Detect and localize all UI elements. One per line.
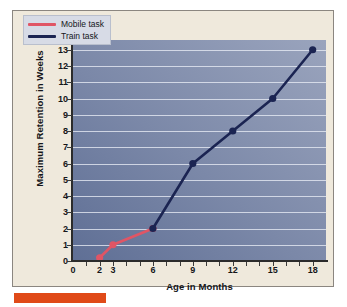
y-axis-tick-labels: 012345678910111213 bbox=[49, 40, 68, 260]
series-line bbox=[100, 229, 153, 258]
y-tick-mark bbox=[67, 82, 72, 83]
y-tick-label: 12 bbox=[49, 62, 68, 71]
data-point-marker bbox=[109, 241, 116, 248]
y-tick-label: 6 bbox=[49, 159, 68, 168]
legend-swatch bbox=[28, 23, 56, 26]
y-tick-label: 2 bbox=[49, 224, 68, 233]
y-tick-mark bbox=[67, 66, 72, 67]
data-point-marker bbox=[309, 46, 316, 53]
y-tick-label: 7 bbox=[49, 143, 68, 152]
y-tick-label: 11 bbox=[49, 78, 68, 87]
y-tick-mark bbox=[67, 99, 72, 100]
x-tick-label: 3 bbox=[110, 266, 115, 276]
x-tick-label: 18 bbox=[308, 266, 318, 276]
y-tick-mark bbox=[67, 229, 72, 230]
legend-label: Mobile task bbox=[61, 20, 104, 29]
y-tick-label: 5 bbox=[49, 175, 68, 184]
legend-swatch bbox=[28, 35, 56, 38]
y-tick-mark bbox=[67, 164, 72, 165]
y-axis-ticks bbox=[67, 40, 72, 260]
y-tick-mark bbox=[67, 212, 72, 213]
x-axis-tick-labels: 02369121518 bbox=[53, 266, 347, 280]
y-tick-label: 1 bbox=[49, 240, 68, 249]
data-point-marker bbox=[149, 225, 156, 232]
legend-item: Mobile task bbox=[28, 19, 104, 29]
legend-item: Train task bbox=[28, 31, 104, 41]
x-tick-label: 0 bbox=[70, 266, 75, 276]
plot-area bbox=[73, 40, 326, 261]
y-tick-label: 8 bbox=[49, 127, 68, 136]
x-tick-label: 12 bbox=[228, 266, 238, 276]
y-tick-label: 3 bbox=[49, 208, 68, 217]
chart-legend: Mobile taskTrain task bbox=[23, 15, 111, 45]
y-tick-mark bbox=[67, 115, 72, 116]
y-tick-mark bbox=[67, 50, 72, 51]
y-tick-mark bbox=[67, 196, 72, 197]
x-tick-label: 9 bbox=[190, 266, 195, 276]
x-tick-label: 2 bbox=[97, 266, 102, 276]
y-tick-mark bbox=[67, 180, 72, 181]
y-tick-label: 9 bbox=[49, 110, 68, 119]
y-tick-label: 10 bbox=[49, 94, 68, 103]
y-tick-mark bbox=[67, 245, 72, 246]
data-point-marker bbox=[189, 160, 196, 167]
x-tick-label: 6 bbox=[150, 266, 155, 276]
series-line bbox=[153, 50, 313, 229]
legend-label: Train task bbox=[61, 32, 98, 41]
y-tick-label: 13 bbox=[49, 45, 68, 54]
series-lines bbox=[73, 40, 326, 261]
data-point-marker bbox=[269, 95, 276, 102]
x-tick-label: 15 bbox=[268, 266, 278, 276]
y-tick-mark bbox=[67, 131, 72, 132]
x-axis-title: Age in Months bbox=[73, 281, 326, 292]
data-point-marker bbox=[229, 127, 236, 134]
y-axis-title: Maximum Retention in Weeks bbox=[34, 29, 45, 209]
y-tick-label: 0 bbox=[49, 257, 68, 266]
y-tick-mark bbox=[67, 147, 72, 148]
figure-panel: Maximum Retention in Weeks 0123456789101… bbox=[12, 10, 334, 287]
y-tick-label: 4 bbox=[49, 192, 68, 201]
accent-bar bbox=[14, 293, 106, 303]
